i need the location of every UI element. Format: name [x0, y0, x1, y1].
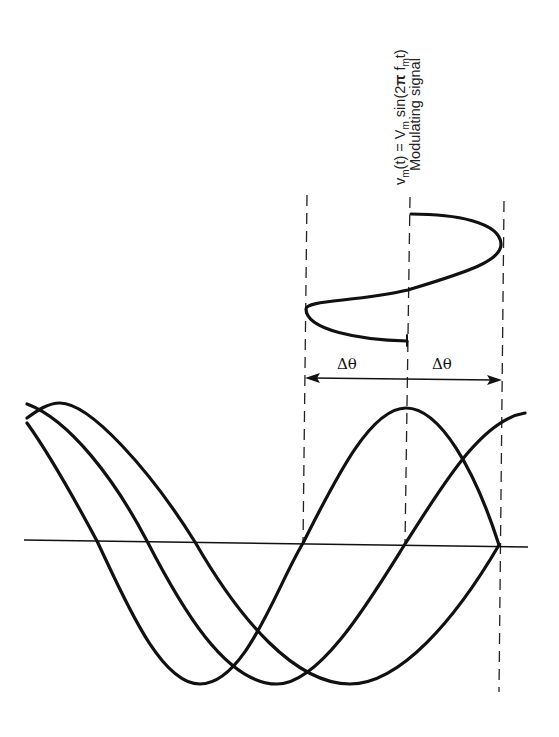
modulating-signal-curve: [306, 214, 501, 341]
delta-theta-right-label: Δθ: [432, 355, 452, 373]
modulating-signal-label: vm(t) = Vm sin(2π fmt) Modulating signal: [392, 49, 423, 185]
phase-modulation-diagram: Δθ Δθ vm(t) = Vm sin(2π fmt) Modulating …: [0, 0, 559, 737]
delta-theta-left-label: Δθ: [337, 355, 357, 373]
dashed-guide-center: [405, 197, 410, 545]
phase-deviation-arrow: [305, 373, 502, 385]
modulating-signal-caption: Modulating signal: [407, 58, 423, 171]
dashed-guide-left: [303, 195, 307, 545]
dashed-guide-right: [499, 201, 504, 692]
